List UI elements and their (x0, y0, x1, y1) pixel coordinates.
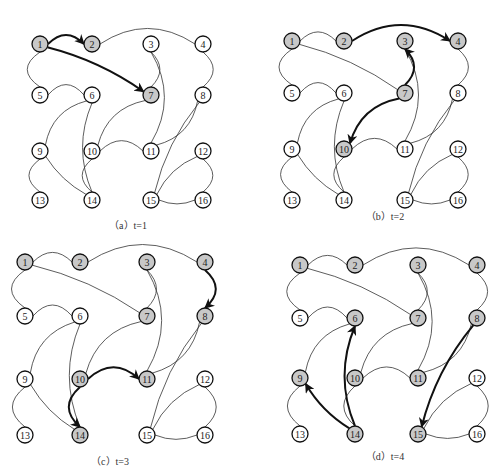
node-label: 16 (200, 430, 210, 441)
edge-4-8 (458, 49, 468, 85)
edge-12-16 (477, 386, 488, 426)
node-4: 4 (195, 36, 211, 52)
node-label: 11 (142, 374, 152, 385)
node-12: 12 (450, 141, 466, 157)
node-label: 13 (287, 195, 297, 206)
node-1: 1 (284, 33, 300, 49)
node-11: 11 (410, 370, 426, 386)
edge-4-8 (477, 273, 488, 310)
edge-12-15 (411, 155, 452, 195)
edge-9-13 (12, 387, 25, 427)
node-label: 3 (149, 39, 154, 50)
node-1: 1 (17, 254, 33, 270)
node-label: 2 (353, 260, 358, 271)
edge-12-15 (424, 384, 471, 429)
edge-6-9 (45, 101, 86, 145)
node-label: 15 (413, 429, 423, 440)
node-label: 12 (472, 373, 482, 384)
edge-12-16 (205, 387, 216, 427)
edge-5-6 (300, 83, 336, 93)
edge-5-6 (48, 85, 84, 95)
node-label: 13 (35, 195, 45, 206)
node-9: 9 (292, 370, 308, 386)
edge-12-16 (203, 159, 213, 192)
node-label: 16 (453, 195, 463, 206)
edge-1-2 (308, 255, 347, 265)
edge-1-5 (27, 52, 40, 87)
node-9: 9 (32, 143, 48, 159)
node-label: 16 (198, 195, 208, 206)
node-16: 16 (469, 426, 485, 442)
edge-5-6 (33, 305, 72, 316)
node-label: 12 (200, 374, 210, 385)
node-label: 16 (472, 429, 482, 440)
node-label: 7 (145, 311, 150, 322)
node-7: 7 (139, 308, 155, 324)
node-6: 6 (72, 308, 88, 324)
node-15: 15 (143, 192, 159, 208)
node-label: 15 (146, 195, 156, 206)
edge-1-2 (300, 32, 336, 41)
edge-1-5 (279, 49, 292, 85)
node-label: 8 (201, 90, 206, 101)
node-8: 8 (195, 87, 211, 103)
node-label: 7 (416, 313, 421, 324)
edge-3-7 (418, 273, 427, 310)
node-label: 5 (290, 88, 295, 99)
edge-15-16 (159, 200, 195, 204)
node-1: 1 (32, 36, 48, 52)
node-label: 1 (290, 36, 295, 47)
bfs-diagram: 12345678910111213141516（a）t=112345678910… (0, 0, 495, 475)
node-label: 4 (201, 39, 206, 50)
node-label: 12 (453, 144, 463, 155)
node-label: 1 (298, 260, 303, 271)
node-2: 2 (72, 254, 88, 270)
node-label: 8 (456, 88, 461, 99)
node-label: 6 (342, 88, 347, 99)
node-8: 8 (197, 308, 213, 324)
node-label: 11 (400, 144, 410, 155)
edge-3-7 (147, 270, 156, 308)
edge-12-15 (153, 385, 199, 430)
node-label: 4 (456, 36, 461, 47)
edge-8-11 (156, 101, 197, 145)
node-3: 3 (139, 254, 155, 270)
node-12: 12 (469, 370, 485, 386)
node-14: 14 (72, 427, 88, 443)
node-4: 4 (469, 257, 485, 273)
node-label: 3 (145, 257, 150, 268)
node-7: 7 (397, 85, 413, 101)
edge-9-13 (287, 386, 300, 426)
node-label: 15 (400, 195, 410, 206)
node-label: 12 (198, 146, 208, 157)
node-2: 2 (84, 36, 100, 52)
node-label: 14 (350, 429, 360, 440)
node-14: 14 (84, 192, 100, 208)
edge-6-9 (297, 99, 338, 143)
node-12: 12 (197, 371, 213, 387)
edge-4-8 (203, 52, 213, 87)
edge-8-11 (424, 324, 472, 373)
node-label: 14 (75, 430, 85, 441)
node-label: 10 (339, 144, 349, 155)
node-label: 5 (23, 311, 28, 322)
panel-d: 12345678910111213141516（d）t=4 (287, 248, 488, 462)
node-label: 1 (38, 39, 43, 50)
node-label: 13 (295, 429, 305, 440)
edge-10-11 (352, 138, 397, 149)
node-label: 2 (78, 257, 83, 268)
node-3: 3 (397, 33, 413, 49)
node-15: 15 (410, 426, 426, 442)
node-2: 2 (347, 257, 363, 273)
edge-1-5 (287, 273, 300, 310)
traversal-arrow-7-3 (405, 49, 414, 85)
node-15: 15 (397, 192, 413, 208)
node-10: 10 (336, 141, 352, 157)
edge-1-5 (12, 270, 26, 308)
node-label: 4 (475, 260, 480, 271)
edge-9-13 (29, 159, 40, 192)
edge-15-16 (413, 200, 450, 204)
traversal-arrow-7-10 (350, 98, 399, 143)
traversal-arrow-1-2 (48, 35, 84, 44)
node-9: 9 (17, 371, 33, 387)
